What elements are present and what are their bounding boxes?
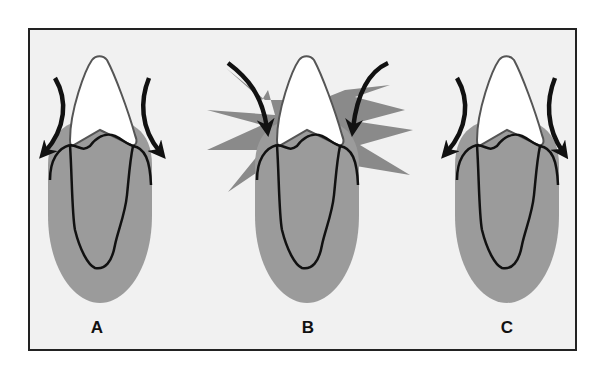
panel-label-a: A (91, 318, 103, 337)
panel-label-c: C (501, 318, 513, 337)
panel-label-b: B (302, 318, 314, 337)
tooth-contour-diagram: A B C (0, 0, 606, 367)
